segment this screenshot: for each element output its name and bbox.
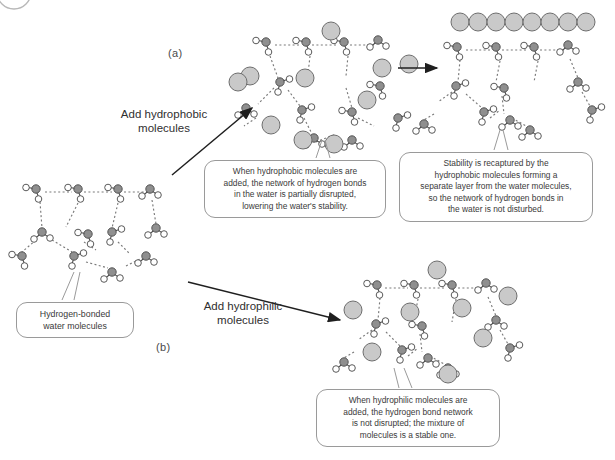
- figure-canvas: (a) (b) Add hydrophobic molecules Add hy…: [0, 0, 615, 460]
- corner-circle-decoration: [0, 0, 31, 9]
- water-network-hydrophobic-disrupted: [229, 22, 418, 153]
- water-network-hydrophilic: [333, 261, 523, 383]
- panel-label-a: (a): [168, 47, 182, 59]
- arrow-label-add-hydrophobic: Add hydrophobic molecules: [99, 107, 229, 136]
- callout-hydrogen-bonded-water: Hydrogen-bonded water molecules: [16, 302, 134, 338]
- callout-hydrophilic-stable: When hydrophilic molecules are added, th…: [316, 389, 500, 447]
- callout-pointer-hydrophilic: [394, 368, 412, 388]
- callout-hydrophobic-disrupted: When hydrophobic molecules are added, th…: [204, 160, 386, 218]
- callout-pointer-water: [62, 272, 80, 300]
- arrow-label-add-hydrophilic: Add hydrophilic molecules: [178, 299, 308, 328]
- diagram-graphics: [0, 0, 615, 460]
- water-network-undisturbed: [413, 41, 605, 141]
- panel-label-b: (b): [156, 341, 170, 353]
- hydrophilic-molecules-group: [344, 261, 517, 383]
- water-network-source: [9, 184, 168, 282]
- hydrophobic-separate-layer: [451, 13, 595, 31]
- callout-hydrophobic-layer: Stability is recaptured by the hydrophob…: [399, 152, 593, 222]
- callout-pointer-layer: [494, 130, 508, 150]
